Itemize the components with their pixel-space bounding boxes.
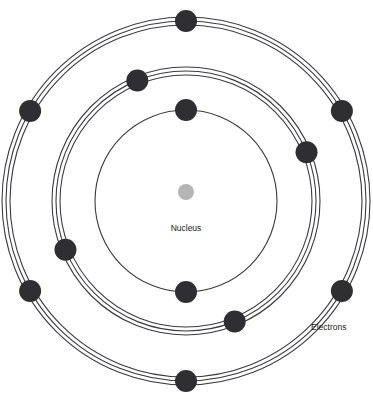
- nucleus-label: Nucleus: [171, 223, 202, 233]
- electron-dot: [296, 141, 318, 163]
- electron-dot: [224, 311, 246, 333]
- electron-dot: [19, 100, 41, 122]
- electrons-label: Electrons: [311, 322, 346, 332]
- electron-dot: [331, 100, 353, 122]
- atom-diagram-canvas: Nucleus Electrons: [0, 0, 373, 399]
- electron-dot: [175, 281, 197, 303]
- electron-dot: [19, 280, 41, 302]
- nucleus-group: [178, 184, 194, 200]
- shell-orbit-line: [95, 110, 277, 292]
- electron-dot: [175, 99, 197, 121]
- electron-dot: [54, 239, 76, 261]
- electron-dot: [175, 10, 197, 32]
- shell-orbit-line: [10, 25, 362, 377]
- electron-dot: [331, 280, 353, 302]
- atomic-structure-diagram: Nucleus Electrons: [0, 0, 373, 399]
- nucleus-icon: [178, 184, 194, 200]
- electron-dot: [126, 69, 148, 91]
- electron-dot: [175, 370, 197, 392]
